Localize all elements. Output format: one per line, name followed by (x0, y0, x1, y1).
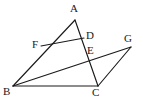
vertex-label-C: C (92, 87, 99, 98)
vertex-label-B: B (3, 86, 10, 97)
vertex-label-F: F (32, 39, 38, 50)
vertex-label-A: A (70, 3, 78, 14)
vertex-label-E: E (87, 45, 94, 56)
vertex-label-D: D (86, 30, 94, 41)
vertex-label-G: G (124, 33, 132, 44)
segment-F-D (41, 38, 84, 46)
geometry-figure: A B C D E F G (0, 0, 143, 101)
geometry-canvas (0, 0, 143, 101)
